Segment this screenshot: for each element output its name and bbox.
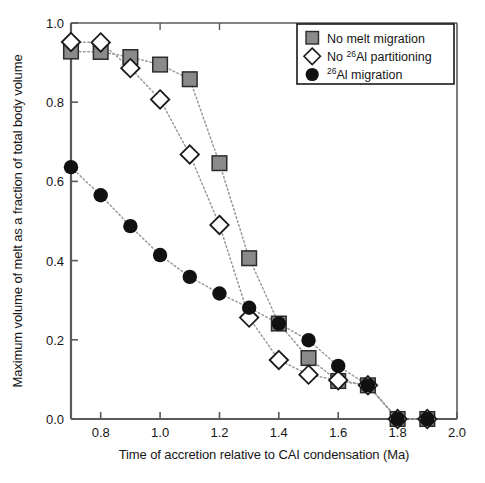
data-point-circle	[212, 286, 226, 300]
data-point-diamond	[299, 365, 317, 383]
y-tick-label: 1.0	[46, 16, 64, 31]
data-point-circle	[331, 359, 345, 373]
data-point-circle	[183, 270, 197, 284]
legend-circle-icon	[306, 68, 319, 81]
legend-text-suffix: Al partitioning	[356, 50, 432, 64]
x-tick-labels: 0.8 1.0 1.2 1.4 1.6 1.8 2.0	[92, 425, 466, 440]
data-point-circle	[123, 219, 137, 233]
legend-text-suffix: Al migration	[336, 68, 402, 82]
y-tick-label: 0.4	[46, 254, 64, 269]
x-tick-label: 1.6	[329, 425, 347, 440]
series-markers	[62, 33, 437, 428]
y-tick-labels: 0.0 0.2 0.4 0.6 0.8 1.0	[46, 16, 64, 427]
legend-superscript: 26	[346, 49, 356, 59]
x-tick-label: 0.8	[92, 425, 110, 440]
legend-item-label-no-melt-migration: No melt migration	[327, 32, 425, 46]
data-point-circle	[93, 188, 107, 202]
data-point-circle	[64, 160, 78, 174]
series-line	[71, 42, 427, 419]
data-point-circle	[242, 301, 256, 315]
data-point-circle	[272, 316, 286, 330]
data-point-square	[301, 351, 316, 366]
legend-item-label-no-al-partitioning: No 26Al partitioning	[327, 49, 432, 65]
x-tick-label: 2.0	[448, 425, 466, 440]
y-axis-title: Maximum volume of melt as a fraction of …	[10, 54, 25, 387]
legend-text-prefix: No	[327, 50, 346, 64]
legend-square-icon	[306, 32, 319, 45]
data-point-square	[242, 251, 257, 266]
legend-superscript: 26	[327, 66, 337, 76]
chart-figure: 0.8 1.0 1.2 1.4 1.6 1.8 2.0 0.0 0.2 0.4 …	[0, 0, 485, 483]
x-tick-label: 1.0	[151, 425, 169, 440]
data-point-circle	[361, 378, 375, 392]
data-point-square	[212, 156, 227, 171]
x-axis-title: Time of accretion relative to CAI conden…	[119, 447, 410, 462]
legend-item-label-al-migration: 26Al migration	[327, 66, 403, 82]
series-connector-lines	[71, 42, 427, 419]
data-point-circle	[390, 412, 404, 426]
data-point-diamond	[270, 351, 288, 369]
chart-legend: No melt migration No 26Al partitioning 2…	[297, 24, 454, 84]
x-tick-label: 1.4	[270, 425, 288, 440]
series-line	[71, 52, 427, 419]
data-point-diamond	[181, 145, 199, 163]
y-tick-label: 0.6	[46, 174, 64, 189]
y-tick-label: 0.2	[46, 333, 64, 348]
data-point-circle	[153, 248, 167, 262]
data-point-circle	[420, 412, 434, 426]
data-point-square	[153, 57, 168, 72]
y-tick-label: 0.0	[46, 412, 64, 427]
data-point-square	[182, 72, 197, 87]
data-point-circle	[301, 333, 315, 347]
data-point-diamond	[210, 216, 228, 234]
melt-volume-scatter-chart: 0.8 1.0 1.2 1.4 1.6 1.8 2.0 0.0 0.2 0.4 …	[0, 0, 485, 483]
x-tick-label: 1.2	[210, 425, 228, 440]
y-tick-label: 0.8	[46, 95, 64, 110]
